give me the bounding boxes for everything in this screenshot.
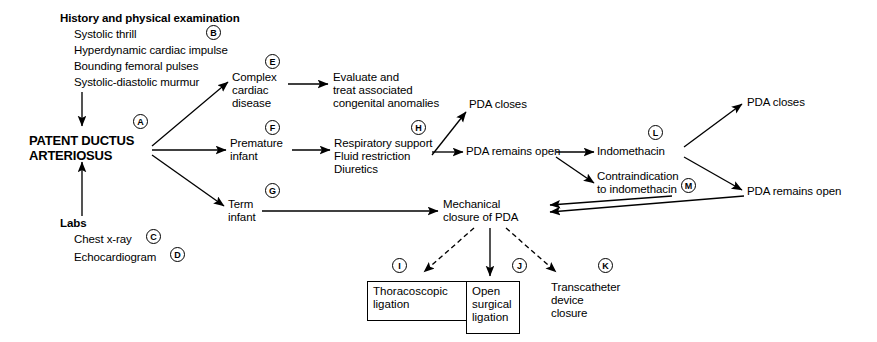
arrow-pda-to-term: [152, 155, 224, 206]
node-contraindication-to-indomethacin: Contraindication to indomethacin: [597, 170, 679, 196]
marker-d[interactable]: D: [170, 247, 185, 262]
node-pda-remains-open-right: PDA remains open: [747, 185, 841, 198]
node-pda-remains-open-mid: PDA remains open: [466, 145, 560, 158]
marker-j[interactable]: J: [512, 258, 527, 273]
arrow-pda-to-complex: [152, 82, 228, 146]
marker-f[interactable]: F: [265, 120, 280, 135]
history-item-systolic-diastolic-murmur: Systolic-diastolic murmur: [74, 76, 199, 89]
node-open-surgical-ligation: Open surgical ligation: [466, 281, 520, 334]
node-pda-closes-right: PDA closes: [747, 96, 805, 109]
pda-algorithm-diagram: History and physical examination Systoli…: [0, 0, 877, 342]
marker-h[interactable]: H: [411, 120, 426, 135]
marker-l[interactable]: L: [648, 125, 663, 140]
node-thoracoscopic-ligation: Thoracoscopic ligation: [367, 281, 482, 321]
labs-item-echocardiogram: Echocardiogram: [74, 251, 156, 264]
arrow-pdaopen-to-contraindication: [556, 157, 594, 183]
node-term-infant: Term infant: [228, 198, 256, 224]
arrow-pdaopen-right-to-mechanical: [550, 196, 744, 212]
labs-heading: Labs: [60, 217, 86, 230]
node-premature-infant: Premature infant: [230, 137, 283, 163]
history-item-hyperdynamic-impulse: Hyperdynamic cardiac impulse: [74, 44, 228, 57]
labs-item-chest-xray: Chest x-ray: [74, 233, 132, 246]
arrow-respiratory-to-pda-closes: [432, 112, 466, 155]
marker-g[interactable]: G: [265, 183, 280, 198]
node-complex-cardiac-disease: Complex cardiac disease: [232, 71, 277, 111]
marker-a[interactable]: A: [133, 114, 148, 129]
node-mechanical-closure-of-pda: Mechanical closure of PDA: [443, 198, 518, 224]
marker-c[interactable]: C: [146, 229, 161, 244]
marker-b[interactable]: B: [206, 25, 221, 40]
marker-e[interactable]: E: [265, 54, 280, 69]
node-transcatheter-device-closure: Transcatheter device closure: [551, 281, 620, 321]
arrow-mechanical-to-thoracoscopic: [424, 228, 474, 272]
marker-k[interactable]: K: [598, 258, 613, 273]
marker-m[interactable]: M: [681, 178, 696, 193]
node-pda-closes-mid: PDA closes: [469, 98, 527, 111]
node-indomethacin: Indomethacin: [597, 145, 665, 158]
history-heading: History and physical examination: [60, 12, 240, 25]
arrow-contraindication-to-mechanical: [550, 196, 672, 205]
marker-i[interactable]: I: [392, 258, 407, 273]
history-item-bounding-pulses: Bounding femoral pulses: [74, 60, 198, 73]
arrow-indomethacin-to-pda-closes: [684, 104, 742, 147]
node-patent-ductus-arteriosus: PATENT DUCTUS ARTERIOSUS: [29, 133, 134, 163]
node-respiratory-support: Respiratory support Fluid restriction Di…: [334, 137, 432, 177]
node-evaluate-treat-anomalies: Evaluate and treat associated congenital…: [333, 71, 439, 111]
history-item-systolic-thrill: Systolic thrill: [74, 28, 136, 41]
